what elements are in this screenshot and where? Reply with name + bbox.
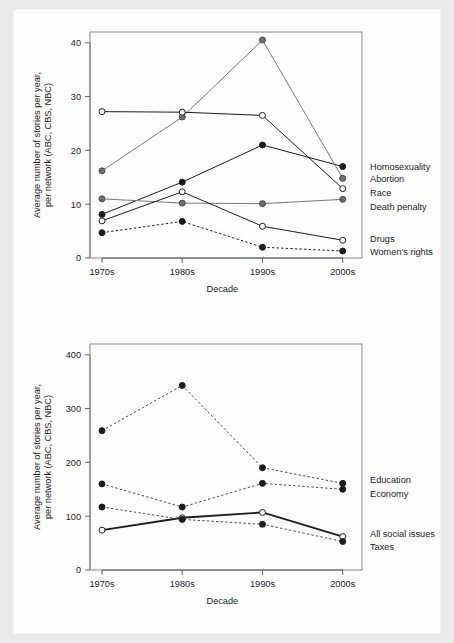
data-point-marker — [340, 237, 346, 243]
plot-frame-bottom — [90, 344, 362, 570]
data-point-marker — [99, 196, 105, 202]
plot-border — [90, 32, 362, 258]
data-point-marker — [99, 527, 105, 533]
data-point-marker — [259, 465, 265, 471]
data-point-marker — [99, 109, 105, 115]
y-tick-label: 0 — [76, 565, 81, 575]
data-point-marker — [259, 480, 265, 486]
series-group-top — [99, 37, 346, 254]
y-tick-label: 0 — [76, 253, 81, 263]
data-point-marker — [259, 37, 265, 43]
y-tick-label: 100 — [66, 512, 81, 522]
series-legend-label: Death penalty — [370, 202, 427, 212]
x-tick-label: 2000s — [330, 267, 355, 277]
y-axis-ticks-top: 010203040 — [71, 38, 90, 263]
data-point-marker — [99, 481, 105, 487]
data-point-marker — [99, 230, 105, 236]
x-axis-ticks-bottom: 1970s1980s1990s2000s — [89, 570, 355, 589]
y-tick-label: 40 — [71, 38, 81, 48]
data-point-marker — [259, 223, 265, 229]
x-axis-title-text: Decade — [207, 596, 239, 606]
data-point-marker — [179, 516, 185, 522]
data-point-marker — [340, 164, 346, 170]
y-axis-title-line: per network (ABC, CBS, NBC) — [43, 395, 53, 519]
data-point-marker — [340, 196, 346, 202]
data-point-marker — [259, 142, 265, 148]
data-point-marker — [99, 504, 105, 510]
data-point-marker — [179, 218, 185, 224]
y-tick-label: 10 — [71, 200, 81, 210]
x-tick-label: 1990s — [250, 267, 275, 277]
x-axis-title-text: Decade — [207, 284, 239, 294]
chart-canvas-top: Average number of stories per year,per n… — [14, 10, 440, 321]
series-line — [102, 40, 343, 178]
series-legend-label: Homosexuality — [370, 162, 431, 172]
series-legend-label: Race — [370, 188, 391, 198]
data-point-marker — [179, 200, 185, 206]
data-point-marker — [99, 168, 105, 174]
chart-social-issues-overall: Average number of stories per year,per n… — [14, 322, 440, 633]
plot-border — [90, 344, 362, 570]
y-axis-title-bottom: Average number of stories per year,per n… — [32, 384, 53, 530]
x-tick-label: 1980s — [170, 579, 195, 589]
data-point-marker — [340, 480, 346, 486]
series-legend-label: Women's rights — [370, 247, 433, 257]
data-point-marker — [259, 521, 265, 527]
series-line — [102, 512, 343, 536]
x-tick-label: 1990s — [250, 579, 275, 589]
data-point-marker — [179, 109, 185, 115]
data-point-marker — [179, 189, 185, 195]
y-tick-label: 20 — [71, 146, 81, 156]
data-point-marker — [340, 248, 346, 254]
y-axis-title-line: per network (ABC, CBS, NBC) — [43, 83, 53, 207]
series-legend-label: All social issues — [370, 529, 435, 539]
data-point-marker — [179, 179, 185, 185]
data-point-marker — [340, 486, 346, 492]
data-point-marker — [259, 244, 265, 250]
page-sheet: Average number of stories per year,per n… — [14, 10, 440, 633]
series-line — [102, 483, 343, 507]
data-point-marker — [99, 211, 105, 217]
series-legend-label: Drugs — [370, 234, 395, 244]
data-point-marker — [99, 218, 105, 224]
series-line — [102, 112, 343, 189]
data-point-marker — [259, 509, 265, 515]
x-axis-title-top: Decade — [207, 284, 239, 294]
series-legend-label: Taxes — [370, 542, 394, 552]
x-tick-label: 1980s — [170, 267, 195, 277]
y-tick-label: 400 — [66, 350, 81, 360]
data-point-marker — [340, 538, 346, 544]
x-axis-ticks-top: 1970s1980s1990s2000s — [89, 258, 355, 277]
plot-frame-top — [90, 32, 362, 258]
series-line — [102, 192, 343, 240]
y-axis-title-line: Average number of stories per year, — [32, 72, 42, 218]
y-axis-title-line: Average number of stories per year, — [32, 384, 42, 530]
series-legend-label: Abortion — [370, 174, 404, 184]
series-group-bottom — [99, 382, 346, 544]
x-tick-label: 1970s — [89, 267, 114, 277]
data-point-marker — [259, 112, 265, 118]
series-legend-label: Economy — [370, 489, 409, 499]
legend-top: HomosexualityAbortionRaceDeath penaltyDr… — [370, 162, 433, 258]
y-tick-label: 300 — [66, 404, 81, 414]
chart-canvas-bottom: Average number of stories per year,per n… — [14, 322, 440, 633]
data-point-marker — [340, 175, 346, 181]
x-axis-title-bottom: Decade — [207, 596, 239, 606]
y-axis-title-top: Average number of stories per year,per n… — [32, 72, 53, 218]
y-tick-label: 200 — [66, 458, 81, 468]
data-point-marker — [179, 504, 185, 510]
data-point-marker — [179, 382, 185, 388]
series-line — [102, 385, 343, 483]
y-axis-ticks-bottom: 0100200300400 — [66, 350, 90, 575]
chart-social-issues-detail: Average number of stories per year,per n… — [14, 10, 440, 321]
legend-bottom: EducationEconomyAll social issuesTaxes — [370, 475, 435, 552]
data-point-marker — [99, 428, 105, 434]
x-tick-label: 1970s — [89, 579, 114, 589]
data-point-marker — [259, 201, 265, 207]
x-tick-label: 2000s — [330, 579, 355, 589]
data-point-marker — [340, 186, 346, 192]
series-legend-label: Education — [370, 475, 411, 485]
y-tick-label: 30 — [71, 92, 81, 102]
series-line — [102, 221, 343, 251]
